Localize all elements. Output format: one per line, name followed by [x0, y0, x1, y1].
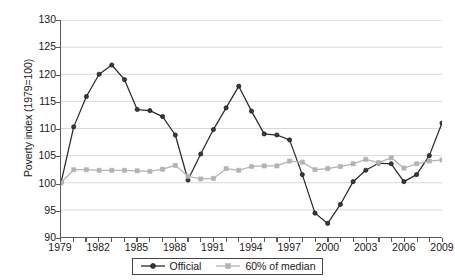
y-axis-tick-label: 120 — [28, 68, 56, 80]
data-point — [440, 158, 442, 162]
data-point — [161, 167, 165, 171]
y-axis-tick-label: 100 — [28, 177, 56, 189]
x-axis-tick-mark — [162, 238, 163, 242]
data-point — [326, 221, 330, 225]
data-point — [275, 164, 279, 168]
x-axis-tick-mark — [238, 238, 239, 242]
data-point — [326, 167, 330, 171]
data-point — [173, 133, 177, 137]
x-axis-tick-label: 2000 — [307, 241, 347, 253]
data-point — [122, 78, 126, 82]
data-point — [61, 181, 63, 185]
data-point — [313, 168, 317, 172]
y-axis-tick-label: 115 — [28, 95, 56, 107]
data-point — [389, 162, 393, 166]
x-axis-tick-mark — [187, 238, 188, 242]
data-point — [173, 163, 177, 167]
data-point — [440, 121, 442, 125]
y-axis-tick-label: 105 — [28, 149, 56, 161]
data-point — [224, 106, 228, 110]
chart-canvas — [61, 20, 442, 237]
x-axis-tick-mark — [111, 238, 112, 242]
data-point — [72, 168, 76, 172]
x-axis-tick-mark — [226, 238, 227, 242]
x-axis-tick-label: 2009 — [422, 241, 455, 253]
data-point — [415, 162, 419, 166]
x-axis-tick-mark — [276, 238, 277, 242]
data-point — [72, 125, 76, 129]
data-point — [110, 63, 114, 67]
x-axis-tick-label: 2006 — [384, 241, 424, 253]
x-axis-tick-label: 1994 — [231, 241, 271, 253]
data-point — [97, 168, 101, 172]
data-point — [351, 162, 355, 166]
legend-entry-2[interactable]: 60% of median — [215, 261, 315, 272]
data-point — [262, 132, 266, 136]
data-point — [135, 169, 139, 173]
data-point — [211, 127, 215, 131]
x-axis-tick-mark — [98, 238, 99, 242]
data-point — [338, 202, 342, 206]
data-point — [427, 154, 431, 158]
x-axis-tick-mark — [417, 238, 418, 242]
data-point — [148, 109, 152, 113]
x-axis-tick-mark — [327, 238, 328, 242]
data-point — [427, 159, 431, 163]
x-axis-tick-mark — [442, 238, 443, 242]
legend-label: 60% of median — [245, 261, 315, 272]
legend-swatch-circle — [140, 261, 166, 271]
data-point — [199, 152, 203, 156]
x-axis-tick-label: 1991 — [193, 241, 233, 253]
data-point — [275, 133, 279, 137]
data-point — [351, 180, 355, 184]
x-axis-tick-mark — [200, 238, 201, 242]
x-axis-tick-mark — [251, 238, 252, 242]
data-point — [338, 164, 342, 168]
data-point — [186, 174, 190, 178]
data-point — [288, 159, 292, 163]
data-point — [415, 173, 419, 177]
chart-figure: Poverty index (1979=100) 909510010511011… — [0, 0, 455, 280]
x-axis-tick-mark — [391, 238, 392, 242]
data-point — [249, 164, 253, 168]
data-point — [364, 168, 368, 172]
legend-swatch-square — [215, 261, 241, 271]
series-line-2 — [61, 158, 442, 183]
x-axis-tick-mark — [149, 238, 150, 242]
x-axis-tick-label: 1988 — [155, 241, 195, 253]
series-line-1 — [61, 65, 442, 223]
data-point — [199, 177, 203, 181]
x-axis-tick-label: 1997 — [269, 241, 309, 253]
data-point — [211, 176, 215, 180]
data-point — [402, 180, 406, 184]
x-axis-tick-mark — [264, 238, 265, 242]
data-point — [161, 114, 165, 118]
data-point — [288, 138, 292, 142]
x-axis-tick-mark — [366, 238, 367, 242]
x-axis-tick-mark — [429, 238, 430, 242]
legend-entry-1[interactable]: Official — [140, 261, 202, 272]
x-axis-tick-mark — [60, 238, 61, 242]
data-point — [135, 107, 139, 111]
x-axis-tick-mark — [378, 238, 379, 242]
data-point — [300, 173, 304, 177]
data-point — [249, 109, 253, 113]
x-axis-tick-label: 2003 — [346, 241, 386, 253]
data-point — [389, 156, 393, 160]
x-axis-tick-mark — [124, 238, 125, 242]
legend-label: Official — [170, 261, 202, 272]
x-axis-tick-mark — [289, 238, 290, 242]
x-axis-tick-label: 1979 — [40, 241, 80, 253]
data-point — [300, 160, 304, 164]
data-point — [364, 157, 368, 161]
x-axis-tick-mark — [315, 238, 316, 242]
x-axis-tick-mark — [85, 238, 86, 242]
x-axis-tick-mark — [213, 238, 214, 242]
chart-legend: Official60% of median — [132, 258, 324, 275]
y-axis-tick-label: 110 — [28, 122, 56, 134]
data-point — [237, 168, 241, 172]
x-axis-tick-label: 1985 — [116, 241, 156, 253]
data-point — [376, 161, 380, 165]
data-point — [97, 72, 101, 76]
data-point — [110, 168, 114, 172]
